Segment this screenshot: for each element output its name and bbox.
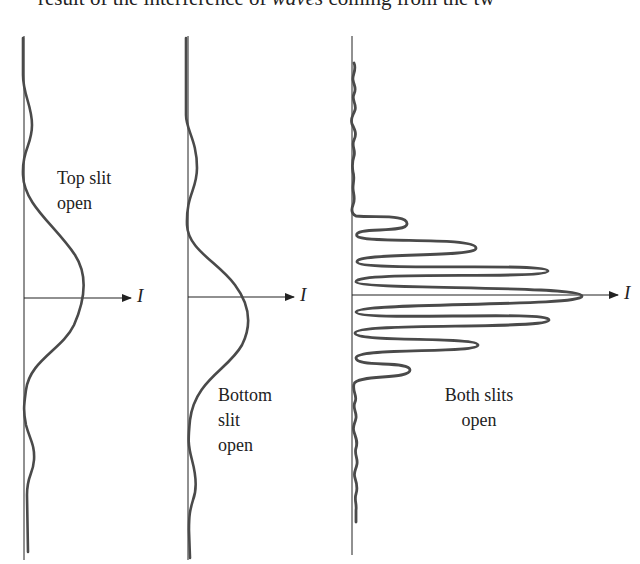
diagram-canvas (0, 0, 640, 564)
label-line: open (433, 408, 525, 433)
intensity-label-bottom: I (300, 284, 306, 306)
label-both-slits-open: Both slits open (433, 383, 525, 433)
panel-top-slit (23, 36, 131, 560)
interference-curve (351, 63, 582, 522)
label-line: Top slit (57, 166, 111, 191)
intensity-label-top: I (137, 285, 143, 307)
label-line: slit (218, 408, 272, 433)
label-line: open (57, 191, 111, 216)
intensity-curve (23, 38, 84, 552)
intensity-label-both: I (624, 282, 630, 304)
label-line: Both slits (433, 383, 525, 408)
intensity-curve (186, 38, 248, 558)
label-bottom-slit-open: Bottom slit open (218, 383, 272, 458)
panel-both-slits (351, 36, 618, 555)
panel-bottom-slit (186, 36, 294, 560)
label-line: Bottom (218, 383, 272, 408)
label-top-slit-open: Top slit open (57, 166, 111, 216)
label-line: open (218, 433, 272, 458)
